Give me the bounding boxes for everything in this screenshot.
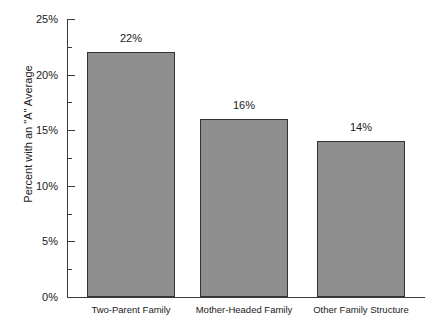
plot-area: 22%16%14% [67,19,425,297]
bar-value-label: 16% [180,100,308,111]
bar [200,119,288,297]
y-tick-label: 15% [10,125,58,136]
x-axis-line [67,297,425,298]
y-tick-major [68,297,75,298]
y-tick-label: 20% [10,70,58,81]
bar-value-label: 14% [297,122,425,133]
bar-value-label: 22% [67,33,195,44]
bar-chart: 0%5%10%15%20%25% Percent with an "A" Ave… [0,0,440,333]
y-tick-label: 10% [10,181,58,192]
y-tick-label: 25% [10,14,58,25]
x-category-label: Other Family Structure [291,304,431,315]
bar [317,141,405,297]
y-tick-label: 0% [10,292,58,303]
bar [87,52,175,297]
y-tick-label: 5% [10,236,58,247]
y-axis-title: Percent with an "A" Average [22,49,34,219]
